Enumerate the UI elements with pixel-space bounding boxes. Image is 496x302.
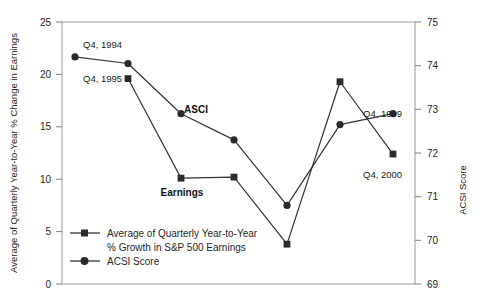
left-tick-0: 0 — [45, 279, 51, 290]
left-tick-10: 10 — [40, 174, 52, 185]
right-axis-ticks — [415, 22, 421, 284]
data-point-earnings-4[interactable] — [284, 241, 291, 248]
data-point-earnings-2[interactable] — [178, 175, 185, 182]
left-axis-ticks — [56, 22, 62, 284]
annotation-q4-1994: Q4, 1994 — [83, 39, 122, 50]
left-tick-25: 25 — [40, 17, 52, 28]
right-tick-69: 69 — [427, 279, 439, 290]
data-point-acsi-0[interactable] — [71, 53, 78, 60]
left-tick-20: 20 — [40, 69, 52, 80]
right-tick-75: 75 — [427, 17, 439, 28]
left-axis-tick-labels: 0 5 10 15 20 25 — [40, 17, 52, 290]
right-tick-72: 72 — [427, 148, 439, 159]
chart-svg: 0 5 10 15 20 25 Average of Quarterly Yea… — [0, 0, 496, 302]
legend-label-acsi: ACSI Score — [107, 256, 160, 267]
series-label-asci: ASCI — [184, 104, 208, 115]
legend-marker-circle-icon — [81, 257, 89, 265]
right-tick-70: 70 — [427, 235, 439, 246]
chart-figure: 0 5 10 15 20 25 Average of Quarterly Yea… — [0, 0, 496, 302]
left-tick-15: 15 — [40, 121, 52, 132]
annotation-q4-2000: Q4, 2000 — [363, 169, 402, 180]
legend-marker-square-icon — [81, 230, 88, 237]
right-axis-title: ACSI Score — [457, 165, 468, 215]
left-axis-title: Average of Quarterly Year-to-Year % Chan… — [8, 33, 19, 273]
right-axis-tick-labels: 69 70 71 72 73 74 75 — [427, 17, 439, 290]
legend-label-earnings-line2: % Growth in S&P 500 Earnings — [107, 242, 246, 253]
right-tick-71: 71 — [427, 191, 439, 202]
data-point-acsi-3[interactable] — [230, 136, 237, 143]
annotation-q4-1995: Q4, 1995 — [83, 73, 122, 84]
data-point-acsi-4[interactable] — [283, 202, 290, 209]
legend-label-earnings-line1: Average of Quarterly Year-to-Year — [107, 228, 258, 239]
data-point-earnings-3[interactable] — [231, 174, 238, 181]
data-point-earnings-6[interactable] — [390, 151, 397, 158]
right-tick-74: 74 — [427, 60, 439, 71]
data-point-earnings-5[interactable] — [337, 78, 344, 85]
series-label-earnings: Earnings — [161, 187, 204, 198]
data-point-acsi-5[interactable] — [336, 121, 343, 128]
left-tick-5: 5 — [45, 226, 51, 237]
annotation-q4-1999: Q4, 1999 — [363, 108, 402, 119]
data-point-acsi-1[interactable] — [124, 60, 131, 67]
right-tick-73: 73 — [427, 104, 439, 115]
data-point-earnings-1[interactable] — [125, 75, 132, 82]
